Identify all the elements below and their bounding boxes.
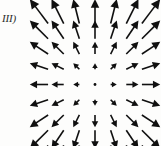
field-vector <box>126 130 138 146</box>
vector-shaft <box>35 6 48 23</box>
field-vector <box>30 81 48 89</box>
vector-arrowhead <box>152 100 160 107</box>
field-vector <box>110 0 118 24</box>
vector-shaft <box>36 65 48 69</box>
field-vector <box>30 0 48 24</box>
vector-shaft <box>111 7 115 24</box>
vector-field-figure: III) <box>0 0 161 146</box>
vector-arrowhead <box>30 81 37 89</box>
field-vector <box>52 81 64 87</box>
field-vector <box>91 145 100 146</box>
vector-shaft <box>75 130 79 142</box>
vector-shaft <box>142 100 154 104</box>
vector-arrowhead <box>91 141 99 146</box>
vector-arrowhead <box>153 81 160 89</box>
field-vector <box>52 42 64 54</box>
vector-shaft <box>76 115 80 122</box>
vector-shaft <box>142 130 155 143</box>
vector-shaft <box>56 26 64 38</box>
vector-shaft <box>126 130 134 142</box>
vector-arrowhead <box>30 100 38 107</box>
vector-arrowhead <box>110 0 118 9</box>
field-vector <box>52 115 64 127</box>
vector-arrowhead <box>52 20 60 29</box>
vector-shaft <box>56 46 64 54</box>
vector-shaft <box>36 115 48 123</box>
vector-arrowhead <box>131 140 139 146</box>
field-vector <box>73 42 79 54</box>
vector-arrowhead <box>151 119 160 127</box>
field-vector <box>52 100 64 106</box>
vector-shaft <box>36 46 48 54</box>
field-vector <box>126 81 138 87</box>
vector-arrowhead <box>73 82 78 87</box>
field-vector <box>111 82 117 87</box>
field-vector <box>142 130 160 146</box>
vector-arrowhead <box>112 82 117 87</box>
vector-arrowhead <box>91 0 100 8</box>
field-vector <box>142 100 160 107</box>
field-vector <box>91 20 99 38</box>
field-vector <box>73 100 79 106</box>
vector-shaft <box>142 65 154 69</box>
vector-shaft <box>35 130 48 143</box>
vector-shaft <box>55 7 64 24</box>
field-vector <box>72 130 79 146</box>
vector-arrowhead <box>92 121 98 127</box>
vector-origin-dot <box>94 83 97 86</box>
vector-arrowhead <box>30 0 39 10</box>
vector-arrowhead <box>52 140 60 146</box>
vector-shaft <box>142 115 154 123</box>
vector-shaft <box>56 100 63 104</box>
vector-shaft <box>111 47 115 54</box>
vector-shaft <box>75 7 79 24</box>
field-vector <box>111 20 118 38</box>
vector-shaft <box>126 7 135 24</box>
vector-shaft <box>142 6 155 23</box>
field-vector <box>111 63 117 69</box>
vector-arrowhead <box>92 42 98 48</box>
field-vector <box>72 20 79 38</box>
vector-shaft <box>111 130 115 142</box>
field-vector <box>52 20 64 38</box>
vector-arrowhead <box>91 20 99 27</box>
field-vector <box>91 0 100 24</box>
field-vector <box>92 42 98 54</box>
vector-shaft <box>126 115 134 123</box>
vector-arrowhead <box>132 81 138 87</box>
field-vector <box>111 130 118 146</box>
field-vector <box>30 130 48 146</box>
field-vector <box>111 115 117 127</box>
vector-field-plot-area <box>0 0 161 146</box>
field-vector <box>126 100 138 106</box>
field-vector <box>92 100 97 106</box>
figure-label: III) <box>2 13 16 24</box>
vector-arrowhead <box>151 42 160 50</box>
field-vector <box>142 115 160 127</box>
vector-shaft <box>76 47 80 54</box>
vector-shaft <box>111 115 115 122</box>
field-vector <box>126 42 138 54</box>
vector-shaft <box>126 46 134 54</box>
vector-shaft <box>56 66 63 70</box>
field-vector <box>30 42 48 54</box>
field-vector <box>30 100 48 107</box>
vector-arrowhead <box>92 101 97 106</box>
vector-shaft <box>142 46 154 54</box>
field-vector <box>111 42 117 54</box>
vector-shaft <box>35 26 48 39</box>
field-vector <box>142 20 160 38</box>
vector-arrowhead <box>151 0 160 10</box>
field-vector <box>111 100 117 106</box>
vector-arrowhead <box>92 63 97 68</box>
vector-shaft <box>142 26 155 39</box>
field-vector <box>52 130 64 146</box>
vector-arrowhead <box>30 42 39 50</box>
field-vector <box>142 42 160 54</box>
vector-shaft <box>126 66 133 70</box>
field-vector <box>73 115 79 127</box>
field-vector <box>142 62 160 69</box>
vector-field-svg <box>0 0 161 146</box>
field-vector <box>126 0 138 24</box>
field-vector <box>126 63 138 69</box>
